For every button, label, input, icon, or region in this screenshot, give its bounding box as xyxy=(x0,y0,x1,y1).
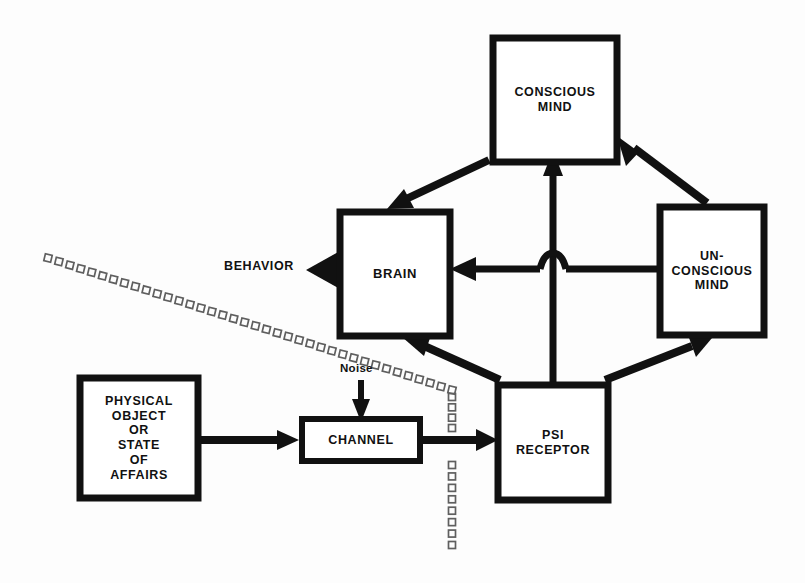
edge-noise-to-channel xyxy=(352,380,370,422)
dotted-square xyxy=(449,404,456,411)
diagram-canvas: CONSCIOUSMIND BRAIN UN-CONSCIOUSMIND PSI… xyxy=(0,0,805,583)
dotted-square xyxy=(153,289,161,297)
dotted-square xyxy=(131,282,139,290)
dotted-square xyxy=(449,542,456,549)
edge-conscious-to-brain xyxy=(387,160,489,209)
dotted-square xyxy=(295,336,303,344)
dotted-square xyxy=(393,368,401,376)
edge-psi-to-brain xyxy=(402,335,500,380)
dotted-square xyxy=(109,275,117,283)
dotted-square xyxy=(449,462,456,469)
dotted-square xyxy=(87,268,95,276)
dotted-square xyxy=(186,300,194,308)
dotted-square xyxy=(164,293,172,301)
dotted-square xyxy=(208,307,216,315)
label-behavior: BEHAVIOR xyxy=(224,259,294,273)
dotted-square xyxy=(55,257,63,265)
node-label-brain: BRAIN xyxy=(340,212,450,336)
dotted-square xyxy=(404,372,412,380)
dotted-square xyxy=(218,311,226,319)
dotted-square xyxy=(449,530,456,537)
dotted-square xyxy=(426,379,434,387)
dotted-square xyxy=(350,354,358,362)
dotted-square xyxy=(142,286,150,294)
dotted-square xyxy=(77,264,85,272)
label-noise: Noise xyxy=(340,362,373,374)
dotted-square xyxy=(382,364,390,372)
dotted-square xyxy=(449,496,456,503)
dotted-square xyxy=(449,519,456,526)
dotted-square xyxy=(306,339,314,347)
edge-channel-to-psi xyxy=(420,429,498,451)
dotted-square xyxy=(66,261,74,269)
dotted-square xyxy=(284,332,292,340)
dotted-square xyxy=(197,304,205,312)
dotted-square xyxy=(449,473,456,480)
dotted-square xyxy=(449,484,456,491)
dotted-square xyxy=(44,254,52,262)
dotted-square xyxy=(240,318,248,326)
node-label-psi-receptor: PSIRECEPTOR xyxy=(498,385,608,500)
dotted-square xyxy=(175,297,183,305)
dotted-square xyxy=(262,325,270,333)
dotted-square xyxy=(437,382,445,390)
dotted-square xyxy=(251,322,259,330)
dotted-square xyxy=(328,347,336,355)
edge-physical-to-channel xyxy=(199,430,299,450)
node-label-physical-object: PHYSICALOBJECTORSTATEOFAFFAIRS xyxy=(80,378,198,498)
dotted-square xyxy=(317,343,325,351)
dotted-square xyxy=(339,350,347,358)
node-label-channel: CHANNEL xyxy=(302,419,420,461)
dotted-square xyxy=(120,279,128,287)
dotted-square xyxy=(98,272,106,280)
dotted-square xyxy=(273,329,281,337)
dotted-square xyxy=(449,507,456,514)
edge-unconscious-to-conscious xyxy=(617,136,707,203)
dotted-square xyxy=(229,314,237,322)
edge-psi-to-conscious xyxy=(543,150,563,395)
node-label-unconscious-mind: UN-CONSCIOUSMIND xyxy=(660,207,764,335)
node-label-conscious-mind: CONSCIOUSMIND xyxy=(493,38,617,162)
dotted-square xyxy=(449,425,456,432)
edge-psi-to-unconscious xyxy=(605,335,712,380)
dotted-square xyxy=(415,375,423,383)
dotted-square xyxy=(449,414,456,421)
